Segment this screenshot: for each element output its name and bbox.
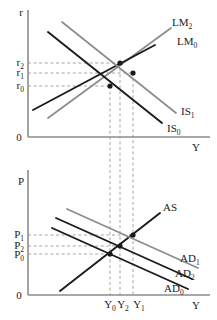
curve-label-lm0: LM0 — [177, 35, 198, 50]
curve-ad2 — [56, 218, 192, 279]
islm-adas-figure: r Y 0 r2 r1 r0 LM2 LM0 IS1 IS0 — [0, 0, 217, 320]
equilibrium-point-bottom-e1 — [130, 232, 135, 237]
curve-lm0 — [33, 45, 155, 110]
bottom-panel: P Y 0 P1 P2 P0 Y0 Y2 Y1 AS AD1 AD2 AD0 — [14, 170, 210, 313]
top-panel-curve-labels: LM2 LM0 IS1 IS0 — [167, 16, 198, 137]
figure-canvas: r Y 0 r2 r1 r0 LM2 LM0 IS1 IS0 — [0, 0, 217, 320]
top-panel-origin-label: 0 — [16, 131, 22, 143]
curve-is0 — [48, 32, 162, 123]
tick-label-y2: Y2 — [117, 298, 129, 313]
equilibrium-point-bottom-e0 — [107, 251, 112, 256]
curve-is1 — [62, 22, 176, 113]
curve-label-lm2: LM2 — [172, 16, 193, 31]
top-panel: r Y 0 r2 r1 r0 LM2 LM0 IS1 IS0 — [16, 6, 210, 153]
equilibrium-point-top-e0 — [107, 83, 112, 88]
top-panel-x-axis-label: Y — [192, 141, 200, 153]
equilibrium-point-bottom-e2 — [117, 243, 122, 248]
bottom-panel-curve-labels: AS AD1 AD2 AD0 — [163, 201, 200, 297]
curve-label-is0: IS0 — [167, 122, 181, 137]
bottom-panel-x-axis-label: Y — [192, 299, 200, 311]
top-panel-y-axis-label: r — [19, 6, 23, 18]
tick-label-y0: Y0 — [104, 298, 116, 313]
curve-label-is1: IS1 — [181, 105, 195, 120]
tick-label-y1: Y1 — [133, 298, 145, 313]
bottom-panel-y-tick-labels: P1 P2 P0 — [14, 228, 24, 263]
curve-ad1 — [67, 209, 198, 268]
equilibrium-point-top-e2 — [117, 60, 122, 65]
bottom-panel-x-tick-labels: Y0 Y2 Y1 — [104, 298, 145, 313]
curve-label-as: AS — [163, 201, 177, 213]
equilibrium-point-top-e1 — [130, 70, 135, 75]
top-panel-y-tick-labels: r2 r1 r0 — [17, 56, 25, 94]
bottom-panel-y-axis-label: P — [18, 175, 24, 187]
tick-label-r0: r0 — [17, 79, 25, 94]
bottom-panel-origin-label: 0 — [16, 289, 22, 301]
curve-lm2 — [48, 28, 171, 118]
curve-label-ad2: AD2 — [175, 267, 195, 282]
